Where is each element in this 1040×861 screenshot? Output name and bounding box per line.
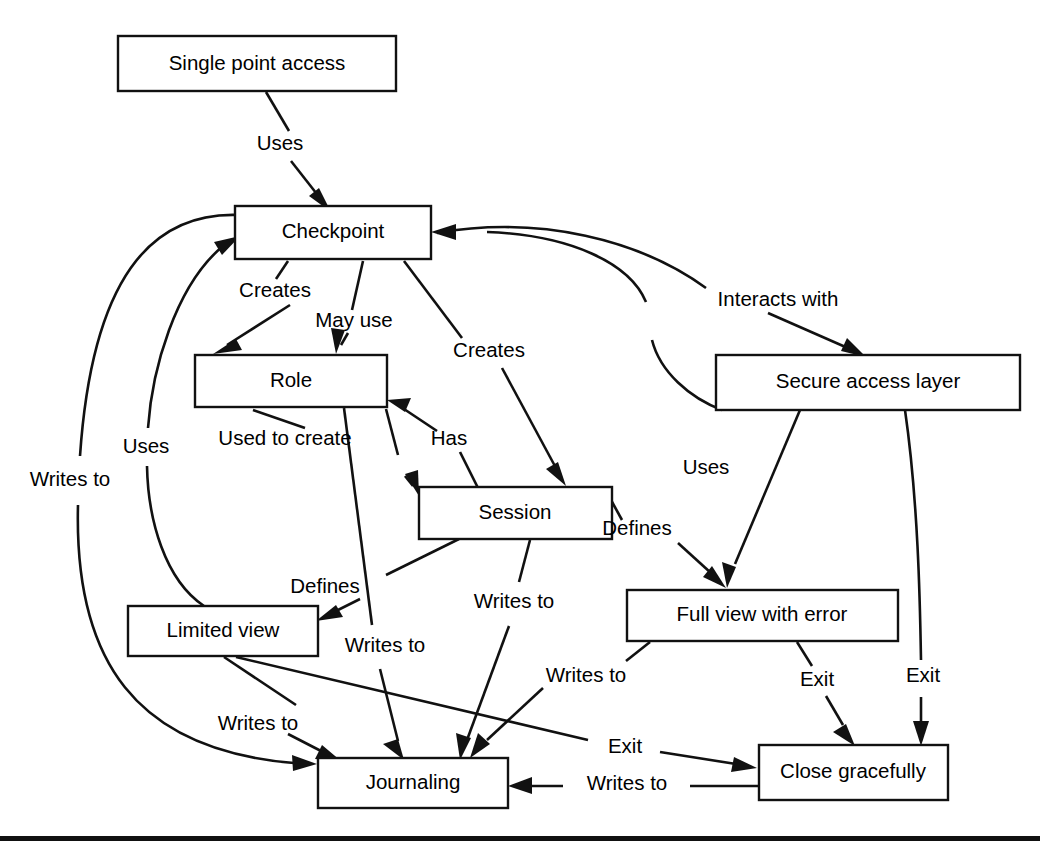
node-label-close-gracefully: Close gracefully: [780, 759, 927, 782]
edge-label-writesto-checkpoint-journaling: Writes to: [30, 467, 111, 490]
edge-label-creates-checkpoint-session: Creates: [453, 338, 525, 361]
edge-label-uses-spa-checkpoint: Uses: [257, 131, 304, 154]
edge-label-creates-checkpoint-role: Creates: [239, 278, 311, 301]
node-full-view-with-error[interactable]: Full view with error: [627, 590, 898, 641]
edge-usedtocreate-role-session: [253, 409, 419, 496]
edge-label-writesto-limitedview-journaling: Writes to: [218, 711, 299, 734]
edge-label-writesto-role-journaling: Writes to: [345, 633, 426, 656]
edge-label-exit-sal-close: Exit: [906, 663, 940, 686]
edge-label-uses-sal-checkpoint: Uses: [683, 455, 730, 478]
edge-creates-checkpoint-role: [213, 261, 290, 354]
edge-label-layer: Uses Creates May use Creates Interacts w…: [30, 131, 941, 794]
node-label-single-point-access: Single point access: [169, 51, 346, 74]
edge-label-interactswith-checkpoint-sal: Interacts with: [718, 287, 839, 310]
edge-exit-limitedview-close: [236, 657, 757, 772]
edge-label-writesto-fullview-journaling: Writes to: [546, 663, 627, 686]
node-role[interactable]: Role: [195, 355, 387, 407]
edge-uses-sal-checkpoint: [431, 224, 722, 410]
node-checkpoint[interactable]: Checkpoint: [235, 206, 431, 259]
diagram-canvas: Single point access Checkpoint Role Secu…: [0, 0, 1040, 861]
edge-label-has-session-role: Has: [431, 426, 467, 449]
node-single-point-access[interactable]: Single point access: [118, 36, 396, 91]
edge-writesto-session-journaling: [456, 540, 530, 760]
node-limited-view[interactable]: Limited view: [128, 606, 318, 656]
edge-exit-fullview-close: [797, 642, 855, 746]
node-secure-access-layer[interactable]: Secure access layer: [716, 355, 1020, 410]
node-layer: Single point access Checkpoint Role Secu…: [118, 36, 1020, 808]
edge-label-writesto-session-journaling: Writes to: [474, 589, 555, 612]
node-label-full-view-with-error: Full view with error: [677, 602, 848, 625]
diagram-root: Single point access Checkpoint Role Secu…: [0, 0, 1040, 861]
edge-uses-limitedview-checkpoint: [147, 236, 240, 606]
edge-label-defines-session-limitedview: Defines: [290, 574, 360, 597]
edge-sal-fullview: [722, 410, 800, 588]
node-label-role: Role: [270, 368, 312, 391]
node-label-limited-view: Limited view: [167, 618, 280, 641]
edge-label-usedtocreate-role-session: Used to create: [218, 426, 351, 449]
edge-label-writesto-close-journaling: Writes to: [587, 771, 668, 794]
edge-creates-checkpoint-session: [404, 261, 566, 486]
node-label-session: Session: [479, 500, 552, 523]
edge-label-mayuse-checkpoint-role: May use: [315, 308, 392, 331]
edge-label-uses-limitedview-checkpoint: Uses: [123, 434, 170, 457]
edge-writesto-limitedview-journaling: [224, 657, 341, 761]
node-label-checkpoint: Checkpoint: [282, 219, 385, 242]
node-label-secure-access-layer: Secure access layer: [776, 369, 961, 392]
edge-label-exit-fullview-close: Exit: [800, 667, 834, 690]
node-close-gracefully[interactable]: Close gracefully: [759, 745, 948, 800]
edge-exit-sal-close: [905, 410, 929, 746]
footer-divider: [0, 836, 1040, 841]
edge-label-exit-limitedview-close: Exit: [608, 734, 642, 757]
edge-defines-session-fullview: [611, 500, 726, 588]
node-session[interactable]: Session: [419, 487, 612, 539]
node-label-journaling: Journaling: [366, 770, 461, 793]
node-journaling[interactable]: Journaling: [318, 758, 508, 808]
edge-label-defines-session-fullview: Defines: [602, 516, 672, 539]
